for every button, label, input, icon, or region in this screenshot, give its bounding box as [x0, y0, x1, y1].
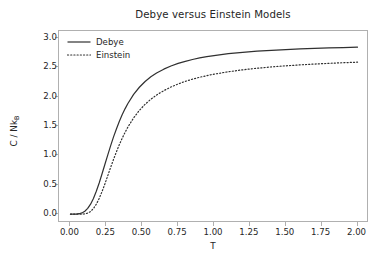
y-tick-label: 1.0 — [43, 149, 57, 159]
x-tick-label: 1.50 — [275, 227, 294, 237]
x-tick-label: 1.25 — [239, 227, 258, 237]
y-tick-label: 2.5 — [43, 61, 57, 71]
x-tick-mark — [357, 222, 358, 226]
chart-title: Debye versus Einstein Models — [58, 9, 368, 20]
legend-swatch-einstein-icon — [67, 51, 91, 59]
x-tick-label: 0.75 — [168, 227, 187, 237]
legend-swatch-debye-icon — [67, 38, 91, 46]
x-tick-mark — [321, 222, 322, 226]
y-axis-label-main: C / Nk — [9, 120, 19, 146]
legend-label: Einstein — [96, 50, 130, 60]
x-tick-mark — [285, 222, 286, 226]
y-tick-label: 0.0 — [43, 208, 57, 218]
series-line-debye — [70, 47, 357, 214]
x-tick-mark — [177, 222, 178, 226]
x-tick-mark — [105, 222, 106, 226]
chart-legend: DebyeEinstein — [63, 33, 135, 63]
y-tick-label: 0.5 — [43, 179, 57, 189]
legend-entry-einstein[interactable]: Einstein — [67, 49, 130, 60]
x-tick-label: 0.25 — [96, 227, 115, 237]
x-tick-label: 2.00 — [347, 227, 366, 237]
y-tick-label: 2.0 — [43, 91, 57, 101]
x-tick-mark — [141, 222, 142, 226]
x-tick-mark — [213, 222, 214, 226]
y-axis-label: C / NkB — [9, 91, 19, 171]
x-tick-label: 0.00 — [60, 227, 79, 237]
y-tick-label: 3.0 — [43, 32, 57, 42]
legend-label: Debye — [96, 37, 124, 47]
legend-entry-debye[interactable]: Debye — [67, 36, 130, 47]
x-axis-label: T — [58, 241, 368, 251]
x-tick-mark — [249, 222, 250, 226]
y-axis-label-subscript: B — [13, 116, 21, 120]
x-tick-label: 0.50 — [132, 227, 151, 237]
chart-figure: Debye versus Einstein Models 0.000.250.5… — [0, 0, 383, 267]
y-tick-label: 1.5 — [43, 120, 57, 130]
x-tick-label: 1.75 — [311, 227, 330, 237]
x-tick-label: 1.00 — [203, 227, 222, 237]
x-tick-mark — [69, 222, 70, 226]
